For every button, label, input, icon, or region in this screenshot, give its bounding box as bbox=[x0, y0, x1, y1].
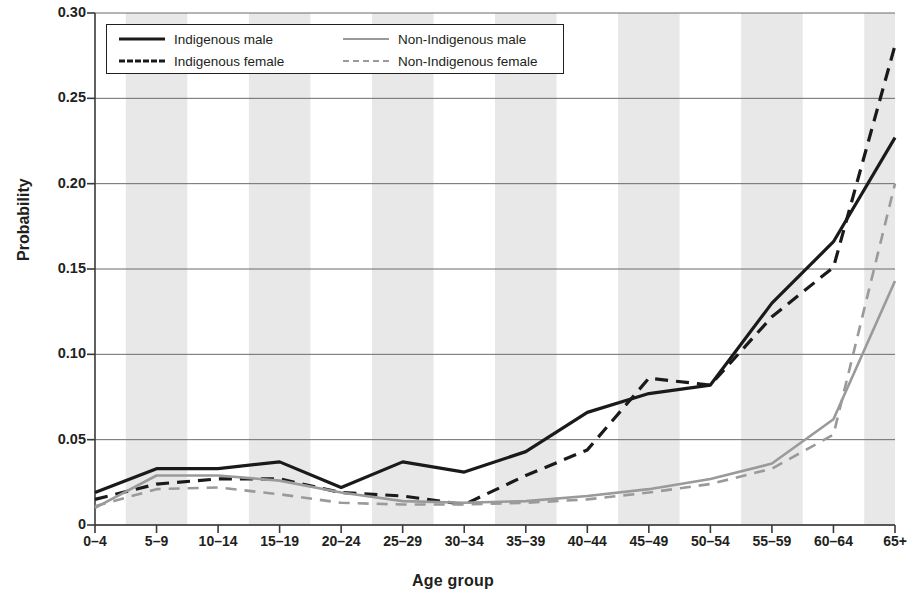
x-tick-label: 40–44 bbox=[568, 533, 607, 549]
x-tick-label: 30–34 bbox=[445, 533, 484, 549]
legend-label: Indigenous male bbox=[174, 32, 273, 47]
x-tick-label: 25–29 bbox=[383, 533, 422, 549]
x-tick-label: 35–39 bbox=[506, 533, 545, 549]
x-tick-label: 0–4 bbox=[83, 533, 106, 549]
legend-label: Non-Indigenous female bbox=[398, 54, 538, 69]
solid-black-line-icon bbox=[119, 32, 165, 46]
solid-gray-line-icon bbox=[343, 32, 389, 46]
legend-entry-indigenous-female: Indigenous female bbox=[119, 50, 284, 72]
legend-label: Indigenous female bbox=[174, 54, 284, 69]
x-axis-title-text: Age group bbox=[412, 572, 494, 589]
x-tick-label: 55–59 bbox=[752, 533, 791, 549]
x-tick-label: 45–49 bbox=[629, 533, 668, 549]
x-tick-label: 60–64 bbox=[814, 533, 853, 549]
x-axis-title: Age group bbox=[0, 572, 906, 590]
x-tick-label: 50–54 bbox=[691, 533, 730, 549]
x-tick-label: 65+ bbox=[883, 533, 907, 549]
legend: Indigenous male Indigenous female Non-In… bbox=[106, 24, 564, 74]
x-tick-label: 5–9 bbox=[145, 533, 168, 549]
legend-entry-non-indigenous-female: Non-Indigenous female bbox=[343, 50, 538, 72]
x-tick-label: 20–24 bbox=[322, 533, 361, 549]
x-tick-label: 10–14 bbox=[199, 533, 238, 549]
x-tick-label: 15–19 bbox=[260, 533, 299, 549]
legend-entry-indigenous-male: Indigenous male bbox=[119, 28, 273, 50]
dashed-black-line-icon bbox=[119, 54, 165, 68]
legend-entry-non-indigenous-male: Non-Indigenous male bbox=[343, 28, 526, 50]
dashed-gray-line-icon bbox=[343, 54, 389, 68]
legend-label: Non-Indigenous male bbox=[398, 32, 526, 47]
